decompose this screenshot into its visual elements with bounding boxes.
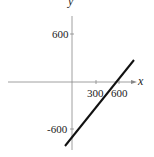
data-line — [65, 60, 134, 146]
y-tick-label-600: 600 — [52, 29, 69, 40]
y-tick-label-neg600: -600 — [47, 124, 67, 135]
x-axis-arrow-icon — [131, 80, 137, 84]
y-axis-label: y — [68, 0, 73, 7]
x-tick-label-600: 600 — [111, 88, 128, 99]
chart-canvas — [0, 0, 154, 157]
x-tick-label-300: 300 — [87, 88, 104, 99]
x-axis-label: x — [138, 75, 143, 87]
